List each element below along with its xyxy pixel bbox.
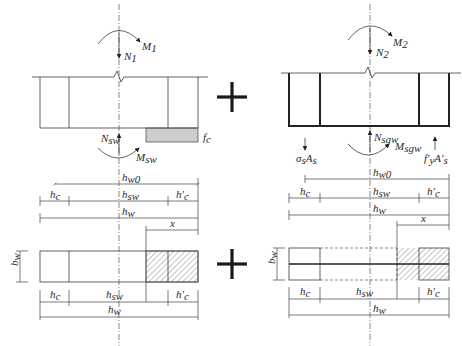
wall-outline-right <box>289 73 449 126</box>
right-dimensions-bottom: hc hsw h′c hw <box>289 285 449 318</box>
concrete-stress-block <box>146 128 198 142</box>
dim-hsw-bottom-right: hsw <box>356 285 374 299</box>
dim-hc-prime-right: h′c <box>427 185 440 199</box>
plus-operator-top <box>217 82 247 112</box>
fc-label: fc <box>203 131 211 145</box>
dim-hsw-bottom: hsw <box>106 288 124 302</box>
dim-x: x <box>169 217 175 229</box>
dim-hc-right: hc <box>300 185 311 199</box>
moment-msw-arrow <box>98 148 139 158</box>
tension-steel-label: σsAs <box>296 152 317 166</box>
moment-m2-label: M2 <box>392 36 408 50</box>
dim-hc: hc <box>50 188 61 202</box>
comp-steel-label: f′yA′s <box>424 152 448 166</box>
dim-hw: hw <box>122 205 136 219</box>
wall-section-superposition-diagram: M1 N1 fc Nsw Msw M2 N2 <box>0 0 462 346</box>
right-cross-section: bw <box>265 248 449 280</box>
moment-m1-label: M1 <box>141 40 157 54</box>
break-line-right <box>281 67 461 78</box>
dim-bw-right: bw <box>265 251 279 265</box>
compression-zone-hatch <box>146 251 198 282</box>
dim-bw: bw <box>8 253 22 267</box>
dim-hw0: hw0 <box>122 171 141 185</box>
dim-hsw: hsw <box>122 188 140 202</box>
axial-n2-label: N2 <box>375 46 389 60</box>
dim-hsw-right: hsw <box>373 185 391 199</box>
plus-operator-bottom <box>217 249 247 279</box>
dim-hw-bottom: hw <box>108 303 122 317</box>
axial-n1-label: N1 <box>123 50 137 64</box>
moment-msgw-arrow <box>348 144 389 155</box>
dim-hc-prime: h′c <box>176 188 189 202</box>
dim-hc-prime-bottom: h′c <box>176 288 189 302</box>
dim-hc-bottom-right: hc <box>300 285 311 299</box>
msw-label: Msw <box>135 151 157 165</box>
nsw-label: Nsw <box>100 132 121 146</box>
dim-hw0-right: hw0 <box>373 166 392 180</box>
msgw-label: Msgw <box>394 140 422 154</box>
dim-hw-bottom-right: hw <box>373 302 387 316</box>
dim-x-right: x <box>420 212 426 224</box>
dim-hw-right: hw <box>373 202 387 216</box>
left-cross-section: bw <box>8 251 198 282</box>
break-line <box>32 71 208 82</box>
dim-hc-bottom: hc <box>50 288 61 302</box>
dim-hc-prime-bottom-right: h′c <box>427 285 440 299</box>
